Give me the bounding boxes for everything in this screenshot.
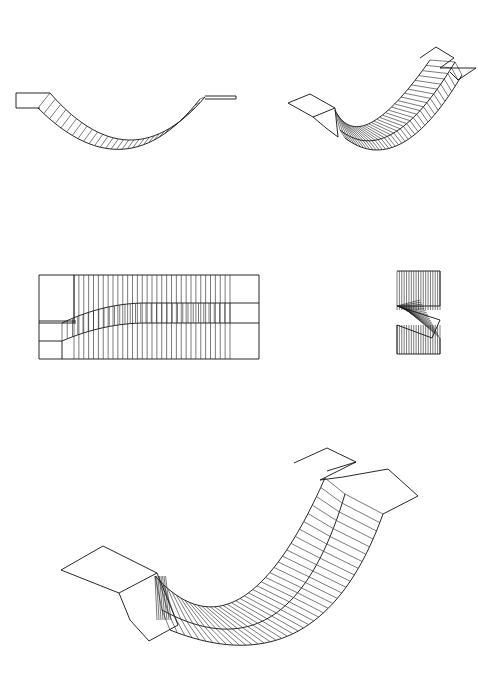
end-view — [397, 271, 440, 354]
isometric-small-view — [288, 47, 476, 150]
isometric-large-view — [61, 448, 418, 645]
side-elevation-view — [16, 93, 236, 149]
ramp-diagram — [0, 0, 478, 681]
plan-view — [39, 275, 259, 359]
